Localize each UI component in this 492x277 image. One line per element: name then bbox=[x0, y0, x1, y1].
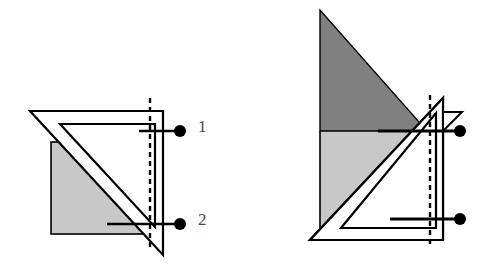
right-marker-dot-2 bbox=[454, 213, 466, 225]
left-marker-dot-1 bbox=[174, 125, 186, 137]
callout-label-2: 2 bbox=[198, 211, 207, 228]
left-marker-dot-2 bbox=[174, 218, 186, 230]
figure-canvas: 1 2 bbox=[0, 0, 492, 277]
right-dark-triangle bbox=[320, 10, 427, 131]
diagram-svg bbox=[0, 0, 492, 277]
right-marker-dot-1 bbox=[454, 125, 466, 137]
left-panel bbox=[30, 98, 186, 255]
callout-label-1: 1 bbox=[198, 118, 207, 135]
right-panel bbox=[310, 10, 466, 248]
